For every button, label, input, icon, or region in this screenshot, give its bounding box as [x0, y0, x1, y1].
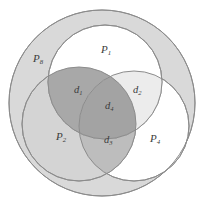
label-d1: d1 — [74, 85, 83, 96]
venn-diagram-figure: P8 P1 P2 P4 d1 d2 d3 d4 — [0, 0, 205, 216]
label-p8: P8 — [33, 53, 43, 66]
venn-diagram-canvas — [0, 0, 205, 216]
label-p2: P2 — [56, 131, 66, 144]
label-d4: d4 — [105, 101, 114, 112]
label-p1: P1 — [101, 44, 111, 57]
label-p4: P4 — [150, 133, 160, 146]
label-d3: d3 — [104, 135, 113, 146]
label-d2: d2 — [133, 85, 142, 96]
